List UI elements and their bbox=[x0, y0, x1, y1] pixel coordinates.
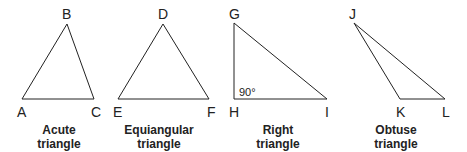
equiangular-triangle-shape bbox=[118, 24, 209, 99]
vertex-label-b: B bbox=[62, 6, 71, 22]
obtuse-caption-line1: Obtuse bbox=[346, 123, 446, 137]
vertex-label-g: G bbox=[229, 6, 240, 22]
equiangular-caption-line2: triangle bbox=[109, 137, 209, 151]
vertex-label-a: A bbox=[17, 104, 27, 120]
acute-triangle-shape bbox=[22, 24, 94, 99]
vertex-label-j: J bbox=[349, 6, 356, 22]
vertex-label-k: K bbox=[396, 104, 406, 120]
right-caption-line1: Right bbox=[228, 123, 328, 137]
vertex-label-h: H bbox=[229, 104, 239, 120]
acute-caption-line2: triangle bbox=[9, 137, 109, 151]
vertex-label-f: F bbox=[207, 104, 216, 120]
obtuse-triangle-shape bbox=[354, 23, 445, 99]
equiangular-caption-line1: Equiangular bbox=[109, 123, 209, 137]
obtuse-caption-line2: triangle bbox=[346, 137, 446, 151]
right-caption-line2: triangle bbox=[228, 137, 328, 151]
vertex-label-l: L bbox=[442, 104, 450, 120]
right-caption: Right triangle bbox=[228, 123, 328, 151]
vertex-label-d: D bbox=[158, 6, 168, 22]
vertex-label-c: C bbox=[91, 104, 101, 120]
obtuse-caption: Obtuse triangle bbox=[346, 123, 446, 151]
vertex-label-e: E bbox=[113, 104, 122, 120]
vertex-label-i: I bbox=[325, 104, 329, 120]
right-angle-label: 90° bbox=[239, 86, 256, 98]
equiangular-caption: Equiangular triangle bbox=[109, 123, 209, 151]
acute-caption-line1: Acute bbox=[9, 123, 109, 137]
acute-caption: Acute triangle bbox=[9, 123, 109, 151]
